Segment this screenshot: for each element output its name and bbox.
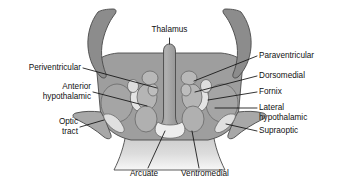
label-fornix: Fornix [259,87,282,96]
label-thalamus: Thalamus [152,25,188,34]
left-ventromedial-nucleus [135,106,157,132]
label-paraventricular: Paraventricular [259,51,314,60]
right-paraventricular-nucleus [181,71,197,85]
label-arcuate: Arcuate [130,169,159,178]
label-ventromedial: Ventromedial [181,169,229,178]
label-optic-tract-line1: Optic [59,117,78,126]
label-anterior-hypothalamic-line2: hypothalamic [43,92,91,101]
label-periventricular: Periventricular [29,63,82,72]
label-anterior-hypothalamic-line1: Anterior [62,82,91,91]
label-optic-tract-line2: tract [62,127,79,136]
label-lateral-hypothalamic-line1: Lateral [259,103,284,112]
right-periventricular-nucleus [181,84,191,96]
label-lateral-hypothalamic-line2: hypothalamic [259,113,307,122]
label-supraoptic: Supraoptic [259,126,298,135]
hypothalamus-coronal-section-illustration: Thalamus Periventricular Anterior hypoth… [0,0,339,185]
right-ventromedial-nucleus [182,106,204,132]
label-dorsomedial: Dorsomedial [259,71,305,80]
left-paraventricular-nucleus [142,71,158,85]
hypothalamus-diagram-figure: Thalamus Periventricular Anterior hypoth… [0,0,339,185]
